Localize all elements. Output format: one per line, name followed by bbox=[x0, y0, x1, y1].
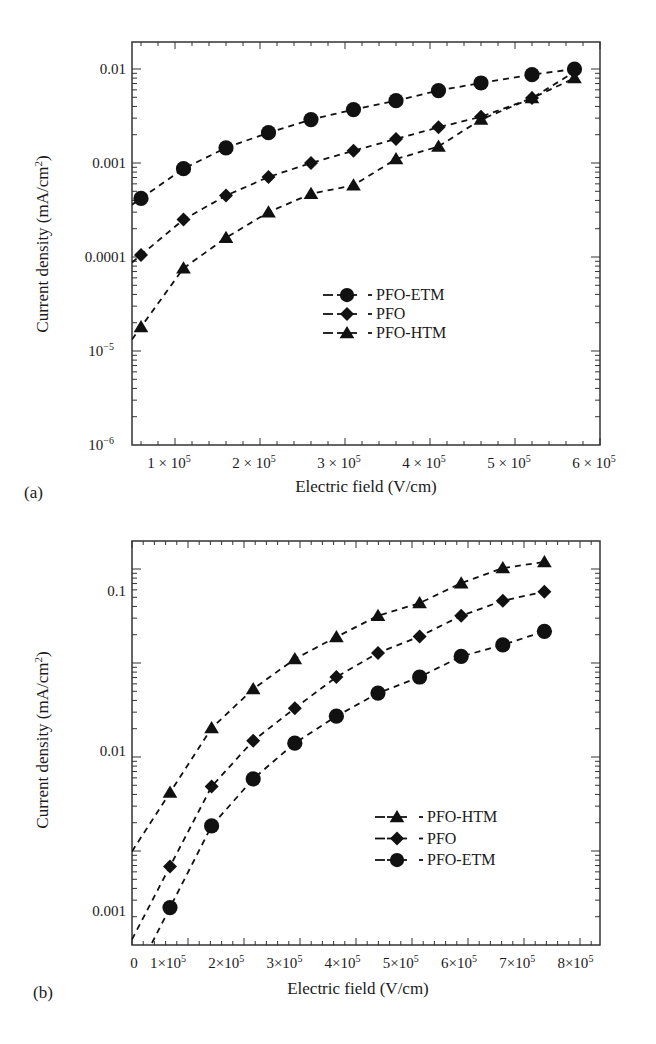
diamond-marker-icon bbox=[246, 734, 260, 748]
tick-label: 0.1 bbox=[107, 583, 126, 599]
circle-marker-icon bbox=[218, 140, 233, 155]
y-axis-title-b: Current density (mA/cm2) bbox=[32, 651, 52, 828]
circle-legend-icon bbox=[390, 853, 404, 867]
tick-label: 2×105 bbox=[208, 953, 244, 971]
circle-marker-icon bbox=[388, 93, 403, 108]
legend-entry-pfo-etm: PFO-ETM bbox=[375, 851, 495, 868]
circle-marker-icon bbox=[287, 736, 302, 751]
x-axis-title-a: Electric field (V/cm) bbox=[295, 477, 437, 496]
tick-label: 10−6 bbox=[88, 435, 114, 453]
triangle-marker-icon bbox=[261, 205, 276, 217]
circle-marker-icon bbox=[524, 67, 539, 82]
legend-entry-pfo: PFO bbox=[375, 830, 456, 847]
legend-label: PFO-HTM bbox=[376, 324, 446, 341]
tick-label: 0.0001 bbox=[85, 249, 126, 265]
panel-label-a: (a) bbox=[24, 483, 43, 502]
tick-label: 0.001 bbox=[92, 903, 126, 919]
diamond-marker-icon bbox=[304, 156, 318, 170]
y-axis-title-a: Current density (mA/cm2) bbox=[32, 155, 52, 332]
diamond-marker-icon bbox=[432, 120, 446, 134]
tick-label: 6 × 105 bbox=[572, 453, 615, 471]
triangle-marker-icon bbox=[329, 630, 344, 642]
circle-marker-icon bbox=[537, 624, 552, 639]
legend-entry-pfo-htm: PFO-HTM bbox=[375, 808, 497, 825]
tick-label: 1×105 bbox=[150, 953, 186, 971]
tick-label: 0.001 bbox=[92, 155, 126, 171]
triangle-marker-icon bbox=[163, 786, 178, 798]
circle-marker-icon bbox=[473, 75, 488, 90]
circle-marker-icon bbox=[246, 771, 261, 786]
triangle-marker-icon bbox=[219, 231, 234, 243]
diamond-marker-icon bbox=[219, 189, 233, 203]
tick-label: 2 × 105 bbox=[232, 453, 275, 471]
tick-label: 6×105 bbox=[441, 953, 477, 971]
legend-entry-pfo-etm: PFO-ETM bbox=[323, 286, 444, 303]
tick-label: 1 × 105 bbox=[147, 453, 190, 471]
diamond-marker-icon bbox=[537, 585, 551, 599]
diamond-marker-icon bbox=[262, 170, 276, 184]
triangle-marker-icon bbox=[304, 187, 319, 199]
legend-label: PFO bbox=[376, 305, 405, 322]
tick-label: 10−5 bbox=[88, 341, 114, 359]
triangle-marker-icon bbox=[346, 178, 361, 190]
tick-label: 4×105 bbox=[325, 953, 361, 971]
diamond-legend-icon bbox=[340, 307, 354, 321]
circle-marker-icon bbox=[495, 637, 510, 652]
tick-label: 0 bbox=[130, 955, 138, 971]
diamond-marker-icon bbox=[389, 132, 403, 146]
diamond-marker-icon bbox=[413, 629, 427, 643]
tick-label: 3×105 bbox=[266, 953, 302, 971]
circle-marker-icon bbox=[261, 125, 276, 140]
legend-label: PFO-HTM bbox=[427, 808, 497, 825]
triangle-marker-icon bbox=[412, 596, 427, 608]
triangle-marker-icon bbox=[431, 139, 446, 151]
tick-label: 3 × 105 bbox=[317, 453, 360, 471]
tick-label: 0.01 bbox=[100, 743, 126, 759]
tick-label: 8×105 bbox=[557, 953, 593, 971]
diamond-marker-icon bbox=[371, 646, 385, 660]
legend-b: PFO-HTMPFOPFO-ETM bbox=[375, 808, 497, 868]
plot-area-b bbox=[132, 541, 600, 945]
figure: 1 × 1052 × 1053 × 1054 × 1055 × 1056 × 1… bbox=[0, 0, 656, 1044]
circle-marker-icon bbox=[412, 669, 427, 684]
triangle-marker-icon bbox=[246, 682, 261, 694]
circle-marker-icon bbox=[454, 649, 469, 664]
data-series-a bbox=[132, 61, 582, 339]
diamond-marker-icon bbox=[329, 670, 343, 684]
tick-label: 5×105 bbox=[383, 953, 419, 971]
circle-marker-icon bbox=[176, 161, 191, 176]
chart-panel-b: 01×1052×1053×1054×1055×1056×1057×1058×10… bbox=[32, 541, 600, 1002]
diamond-marker-icon bbox=[163, 859, 177, 873]
tick-label: 5 × 105 bbox=[487, 453, 530, 471]
circle-marker-icon bbox=[162, 900, 177, 915]
legend-a: PFO-ETMPFOPFO-HTM bbox=[323, 286, 446, 341]
circle-marker-icon bbox=[303, 112, 318, 127]
diamond-marker-icon bbox=[454, 609, 468, 623]
data-series-b bbox=[132, 555, 552, 982]
chart-panel-a: 1 × 1052 × 1053 × 1054 × 1055 × 1056 × 1… bbox=[24, 42, 616, 502]
tick-label: 7×105 bbox=[499, 953, 535, 971]
circle-marker-icon bbox=[204, 818, 219, 833]
circle-marker-icon bbox=[431, 83, 446, 98]
triangle-marker-icon bbox=[454, 576, 469, 588]
tick-label: 4 × 105 bbox=[402, 453, 445, 471]
x-axis-title-b: Electric field (V/cm) bbox=[287, 979, 429, 998]
tick-label: 0.01 bbox=[100, 61, 126, 77]
legend-entry-pfo-htm: PFO-HTM bbox=[323, 324, 446, 341]
triangle-marker-icon bbox=[176, 261, 191, 273]
series-pfo bbox=[132, 585, 551, 940]
legend-label: PFO-ETM bbox=[427, 851, 495, 868]
diamond-marker-icon bbox=[347, 144, 361, 158]
diamond-legend-icon bbox=[390, 832, 404, 846]
series-pfo-htm bbox=[132, 555, 552, 851]
circle-marker-icon bbox=[346, 102, 361, 117]
series-pfo bbox=[132, 65, 582, 263]
panel-label-b: (b) bbox=[33, 983, 53, 1002]
triangle-marker-icon bbox=[537, 555, 552, 567]
circle-marker-icon bbox=[329, 709, 344, 724]
triangle-marker-icon bbox=[287, 652, 302, 664]
circle-marker-icon bbox=[370, 686, 385, 701]
legend-entry-pfo: PFO bbox=[323, 305, 405, 322]
circle-legend-icon bbox=[340, 288, 354, 302]
legend-label: PFO-ETM bbox=[376, 286, 444, 303]
